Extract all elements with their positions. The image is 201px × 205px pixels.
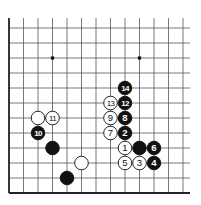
black-stone-icon <box>60 171 74 185</box>
white-stone-1: 1 <box>118 141 132 155</box>
go-board: 1413121198107216534 <box>0 0 201 205</box>
white-stone-9: 9 <box>104 111 118 125</box>
star-point-icon <box>51 56 54 59</box>
white-stone-7: 7 <box>104 126 118 140</box>
black-stone-4: 4 <box>147 156 161 170</box>
black-stone-icon <box>133 141 147 155</box>
black-stone-8: 8 <box>118 111 132 125</box>
black-stone-12: 12 <box>118 96 132 110</box>
move-number-label: 9 <box>108 112 113 123</box>
move-number-label: 8 <box>122 112 127 123</box>
black-stone-6: 6 <box>147 141 161 155</box>
move-number-label: 7 <box>108 127 113 138</box>
black-stone-2: 2 <box>118 126 132 140</box>
move-number-label: 2 <box>122 127 127 138</box>
board-grid <box>9 18 190 193</box>
white-stone-icon <box>75 156 89 170</box>
white-stone <box>75 156 89 170</box>
move-number-label: 3 <box>137 157 142 168</box>
move-number-label: 12 <box>121 99 130 108</box>
black-stone <box>60 171 74 185</box>
black-stone-14: 14 <box>118 81 132 95</box>
move-number-label: 4 <box>151 157 157 168</box>
move-number-label: 13 <box>107 99 116 108</box>
white-stone-icon <box>31 111 45 125</box>
white-stone <box>31 111 45 125</box>
white-stone-3: 3 <box>133 156 147 170</box>
white-stone-5: 5 <box>118 156 132 170</box>
move-number-label: 11 <box>49 114 57 123</box>
move-number-label: 6 <box>151 142 156 153</box>
black-stone-10: 10 <box>31 126 45 140</box>
black-stone-icon <box>46 141 60 155</box>
black-stone <box>46 141 60 155</box>
move-number-label: 10 <box>34 129 43 138</box>
white-stone-11: 11 <box>46 111 60 125</box>
move-number-label: 14 <box>121 84 130 93</box>
black-stone <box>133 141 147 155</box>
move-number-label: 1 <box>122 142 127 153</box>
move-number-label: 5 <box>122 157 127 168</box>
star-point-icon <box>138 56 141 59</box>
white-stone-13: 13 <box>104 96 118 110</box>
